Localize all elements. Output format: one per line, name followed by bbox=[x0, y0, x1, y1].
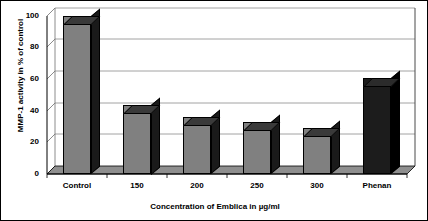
bar-front-face bbox=[363, 78, 391, 174]
bar-front-face bbox=[123, 105, 151, 175]
bar-250 bbox=[243, 122, 271, 174]
x-axis-title: Concentration of Emblica in µg/ml bbox=[1, 202, 428, 211]
bar-control bbox=[63, 16, 91, 174]
bar-300 bbox=[303, 128, 331, 174]
chart-figure: MMP-1 activity in % of control 100 80 60… bbox=[0, 0, 428, 221]
bar-front-face bbox=[63, 16, 91, 174]
x-tick-label-phenan: Phenan bbox=[342, 181, 412, 190]
bar-200 bbox=[183, 117, 211, 174]
bar-side-face bbox=[91, 8, 100, 174]
bar-150 bbox=[123, 105, 151, 175]
bar-phenan bbox=[363, 78, 391, 174]
